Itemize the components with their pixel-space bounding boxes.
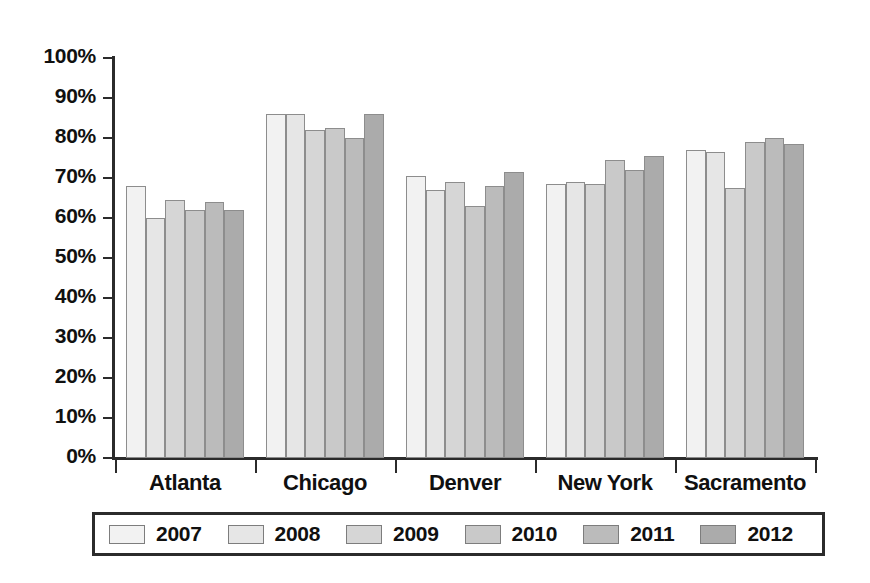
bar	[686, 150, 706, 458]
bar	[406, 176, 426, 458]
plot-area	[115, 58, 815, 458]
bar	[126, 186, 146, 458]
legend-label: 2011	[630, 522, 674, 546]
bar	[585, 184, 605, 458]
legend-item[interactable]: 2009	[346, 522, 439, 546]
bar	[305, 130, 325, 458]
legend-swatch	[583, 525, 619, 544]
bar	[765, 138, 785, 458]
x-axis-category-label: Chicago	[255, 470, 395, 496]
y-axis-tick-label: 30%	[0, 324, 96, 348]
bar	[266, 114, 286, 458]
y-axis-tick-label: 60%	[0, 204, 96, 228]
legend-label: 2007	[156, 522, 202, 546]
bar	[224, 210, 244, 458]
y-axis-tick-label: 90%	[0, 84, 96, 108]
legend-item[interactable]: 2007	[109, 522, 202, 546]
legend-item[interactable]: 2008	[228, 522, 321, 546]
bar	[504, 172, 524, 458]
bar-group	[546, 58, 664, 458]
bar	[745, 142, 765, 458]
x-axis-category-label: Sacramento	[675, 470, 815, 496]
bar	[784, 144, 804, 458]
bar	[146, 218, 166, 458]
bar-chart: 100%90%80%70%60%50%40%30%20%10%0% Atlant…	[0, 0, 870, 583]
legend-item[interactable]: 2010	[465, 522, 558, 546]
x-axis-tick	[815, 460, 817, 473]
legend-swatch	[109, 525, 145, 544]
bar	[605, 160, 625, 458]
y-axis-tick-label: 80%	[0, 124, 96, 148]
y-axis-tick-label: 50%	[0, 244, 96, 268]
y-axis-tick-label: 100%	[0, 44, 96, 68]
bar	[566, 182, 586, 458]
bar-group	[686, 58, 804, 458]
bar-group	[126, 58, 244, 458]
bar	[165, 200, 185, 458]
y-axis-tick-label: 10%	[0, 404, 96, 428]
bar	[325, 128, 345, 458]
bar	[644, 156, 664, 458]
legend-item[interactable]: 2011	[583, 522, 674, 546]
bar	[345, 138, 365, 458]
x-axis-category-label: Denver	[395, 470, 535, 496]
bar	[625, 170, 645, 458]
bar	[465, 206, 485, 458]
bar	[485, 186, 505, 458]
bar-group	[406, 58, 524, 458]
bar	[706, 152, 726, 458]
chart-legend: 200720082009201020112012	[92, 512, 825, 556]
bar	[286, 114, 306, 458]
x-axis-category-label: New York	[535, 470, 675, 496]
bar-group	[266, 58, 384, 458]
legend-swatch	[228, 525, 264, 544]
legend-label: 2010	[512, 522, 558, 546]
y-axis-tick-label: 0%	[0, 444, 96, 468]
bar	[546, 184, 566, 458]
legend-swatch	[465, 525, 501, 544]
legend-label: 2008	[275, 522, 321, 546]
x-axis-category-label: Atlanta	[115, 470, 255, 496]
legend-swatch	[346, 525, 382, 544]
bar	[205, 202, 225, 458]
legend-item[interactable]: 2012	[700, 522, 793, 546]
bar	[185, 210, 205, 458]
legend-label: 2012	[747, 522, 793, 546]
bar	[725, 188, 745, 458]
bar	[445, 182, 465, 458]
bar	[426, 190, 446, 458]
y-axis-tick-label: 70%	[0, 164, 96, 188]
y-axis-tick-label: 40%	[0, 284, 96, 308]
legend-swatch	[700, 525, 736, 544]
bar	[364, 114, 384, 458]
legend-label: 2009	[393, 522, 439, 546]
y-axis-tick-label: 20%	[0, 364, 96, 388]
